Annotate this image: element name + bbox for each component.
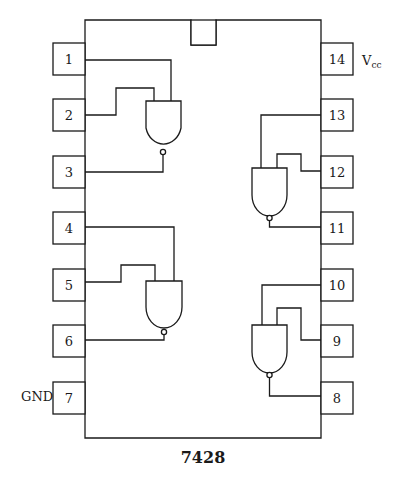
- pin-5: 5: [53, 269, 85, 301]
- pin-14: 14: [321, 43, 353, 75]
- pin-number: 4: [65, 221, 73, 236]
- pin-number: 11: [329, 221, 346, 236]
- left-pins: 1234567: [53, 43, 85, 414]
- gnd-label: GND: [21, 389, 53, 404]
- wire-pin1-in: [85, 60, 171, 101]
- pin-number: 3: [65, 165, 73, 180]
- pin-4: 4: [53, 212, 85, 244]
- wire-pin5-in: [85, 265, 155, 282]
- gate-4: [252, 285, 321, 396]
- inversion-bubble: [161, 329, 166, 334]
- pin-8: 8: [321, 382, 353, 414]
- wire-pin13-in: [261, 115, 321, 168]
- nand-gate-symbol: [252, 325, 287, 373]
- inversion-bubble: [267, 215, 272, 220]
- pin-9: 9: [321, 325, 353, 357]
- pin-number: 5: [65, 278, 73, 293]
- wire-pin10-in: [262, 285, 321, 325]
- pin-number: 8: [333, 391, 341, 406]
- pin-12: 12: [321, 156, 353, 188]
- nand-gate-symbol: [146, 281, 182, 328]
- vcc-label: Vcc: [361, 53, 381, 70]
- wire-pin9-in: [277, 308, 321, 340]
- inversion-bubble: [160, 149, 165, 154]
- wire-pin2-in: [85, 88, 154, 115]
- wire-pin8-out: [270, 378, 322, 396]
- pin-13: 13: [321, 99, 353, 131]
- gate-3: [252, 115, 321, 227]
- pin-number: 9: [333, 334, 341, 349]
- wire-pin3-out: [85, 155, 163, 172]
- pin-number: 7: [65, 391, 73, 406]
- nand-gate-symbol: [146, 101, 181, 144]
- pin-7: 7: [53, 382, 85, 414]
- wire-pin4-in: [85, 227, 174, 281]
- part-number-title: 7428: [181, 448, 226, 467]
- orientation-notch: [191, 20, 216, 45]
- pin-number: 14: [329, 52, 346, 67]
- right-pins: 141312111098: [321, 43, 353, 414]
- pin-6: 6: [53, 325, 85, 357]
- pin-number: 1: [65, 52, 73, 67]
- pin-1: 1: [53, 43, 85, 75]
- pin-10: 10: [321, 269, 353, 301]
- inversion-bubble: [267, 372, 272, 377]
- gate-1: [85, 60, 181, 172]
- wire-pin11-out: [270, 221, 322, 227]
- wire-pin6-out: [85, 335, 164, 340]
- pin-3: 3: [53, 156, 85, 188]
- pin-number: 10: [329, 278, 346, 293]
- pin-2: 2: [53, 99, 85, 131]
- pin-number: 2: [65, 108, 73, 123]
- pin-number: 13: [329, 108, 346, 123]
- pin-number: 6: [65, 334, 73, 349]
- gate-2: [85, 227, 182, 340]
- nand-gate-symbol: [252, 168, 287, 216]
- chip-body: [85, 20, 321, 438]
- pin-11: 11: [321, 212, 353, 244]
- pin-number: 12: [329, 165, 346, 180]
- ic-pinout-diagram: 1234567 141312111098 Vcc GND 7428: [0, 0, 400, 482]
